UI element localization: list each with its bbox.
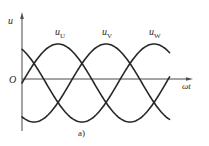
label-u-u: uU (55, 26, 65, 40)
y-axis-label: u (8, 15, 13, 26)
label-u-v: uV (102, 26, 112, 40)
curve-u-u (22, 44, 170, 122)
label-u-u-sub: U (60, 32, 65, 40)
origin-label: O (9, 74, 16, 85)
three-phase-waveform-diagram: u O ωt uU uV uW a) (0, 0, 209, 146)
label-u-w: uW (149, 26, 161, 40)
figure-caption: a) (78, 128, 85, 138)
y-axis-arrow-icon (20, 12, 24, 19)
x-axis-label: ωt (182, 81, 191, 91)
label-u-w-sub: W (154, 32, 161, 40)
label-u-v-sub: V (107, 32, 112, 40)
